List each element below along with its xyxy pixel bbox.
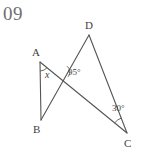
angle-arc-at-C (115, 118, 122, 123)
angle-label-95: 95° (68, 68, 81, 77)
segment-group (40, 35, 127, 133)
vertex-label-B: B (33, 124, 40, 135)
vertex-label-A: A (32, 47, 40, 58)
figure-canvas: 09 D A B C x 95° 30° (0, 0, 147, 152)
angle-label-30: 30° (112, 104, 125, 113)
vertex-label-C: C (124, 138, 131, 149)
vertex-label-D: D (85, 20, 93, 31)
angle-label-x: x (45, 70, 49, 80)
segment-AC (40, 62, 127, 133)
